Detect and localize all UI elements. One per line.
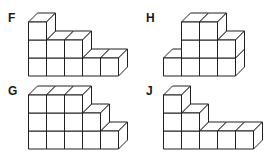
figure-f-top-face-col2: [65, 31, 92, 40]
figure-g-side-face-c3-l1: [101, 104, 110, 131]
figure-g-front-face-c2-l1: [65, 113, 83, 131]
figure-g-top-face-col2: [65, 86, 92, 95]
figure-g-front-face-c3-l1: [83, 113, 101, 131]
figure-g-front-face-c1-l0: [47, 131, 65, 149]
figure-h-front-face-c2-l1: [200, 40, 218, 58]
figure-f-front-face-c0-l1: [29, 40, 47, 58]
figure-g: G: [0, 0, 268, 157]
figure-g-front-face-c2-l2: [65, 95, 83, 113]
figure-f-top-face-col0: [29, 13, 56, 22]
figure-j-top-face-col4: [236, 122, 263, 131]
figure-g-top-face-col1: [47, 86, 74, 95]
figure-h-side-face-c3-l1: [236, 31, 245, 58]
figure-f-front-face-c0-l2: [29, 22, 47, 40]
figure-f-side-face-c4-l0: [119, 49, 128, 76]
figure-h: H: [0, 0, 268, 157]
figure-f-front-face-c2-l0: [65, 58, 83, 76]
figure-f-front-face-c1-l0: [47, 58, 65, 76]
figure-j-side-face-c0-l2: [182, 86, 191, 113]
figure-g-side-face-c2-l2: [83, 86, 92, 113]
figure-j-label: J: [146, 85, 153, 97]
figure-f-drawing: [28, 12, 129, 77]
figure-h-top-face-col2: [200, 13, 227, 22]
figure-h-front-face-c2-l2: [200, 22, 218, 40]
figure-h-front-face-c1-l2: [182, 22, 200, 40]
figure-j-front-face-c0-l1: [164, 113, 182, 131]
figure-f-top-face-col4: [101, 49, 128, 58]
figure-g-label: G: [8, 85, 17, 97]
figure-j-front-face-c0-l2: [164, 95, 182, 113]
figure-g-front-face-c0-l1: [29, 113, 47, 131]
figure-j-side-face-c4-l0: [254, 122, 263, 149]
figure-j: J: [0, 0, 268, 157]
figure-h-front-face-c1-l1: [182, 40, 200, 58]
figure-h-side-face-c2-l2: [218, 13, 227, 40]
figure-f-top-face-col3: [83, 49, 110, 58]
figure-f-front-face-c3-l0: [83, 58, 101, 76]
figure-j-front-face-c1-l1: [182, 113, 200, 131]
figure-j-drawing: [163, 85, 264, 150]
figure-f-front-face-c0-l0: [29, 58, 47, 76]
figure-h-label: H: [146, 12, 155, 24]
cube-figures-panel: FHGJ: [0, 0, 268, 157]
figure-j-top-face-col3: [218, 122, 245, 131]
figure-g-front-face-c2-l0: [65, 131, 83, 149]
figure-j-front-face-c1-l0: [182, 131, 200, 149]
figure-g-front-face-c1-l1: [47, 113, 65, 131]
figure-h-drawing: [163, 12, 246, 77]
figure-f: F: [0, 0, 268, 157]
figure-h-front-face-c1-l0: [182, 58, 200, 76]
figure-j-front-face-c2-l0: [200, 131, 218, 149]
figure-g-front-face-c4-l0: [101, 131, 119, 149]
figure-f-front-face-c2-l1: [65, 40, 83, 58]
figure-j-front-face-c4-l0: [236, 131, 254, 149]
figure-f-front-face-c1-l1: [47, 40, 65, 58]
figure-h-front-face-c2-l0: [200, 58, 218, 76]
figure-g-front-face-c0-l2: [29, 95, 47, 113]
figure-j-top-face-col1: [182, 104, 209, 113]
figure-h-front-face-c0-l0: [164, 58, 182, 76]
figure-j-side-face-c1-l1: [200, 104, 209, 131]
figure-f-side-face-c2-l1: [83, 31, 92, 58]
figure-j-front-face-c0-l0: [164, 131, 182, 149]
figure-j-top-face-col2: [200, 122, 227, 131]
figure-g-drawing: [28, 85, 129, 150]
figure-h-top-face-col3: [218, 31, 245, 40]
figure-h-top-face-col0: [164, 49, 191, 58]
figure-j-top-face-col0: [164, 86, 191, 95]
figure-j-front-face-c3-l0: [218, 131, 236, 149]
figure-h-front-face-c3-l1: [218, 40, 236, 58]
figure-g-top-face-col3: [83, 104, 110, 113]
figure-h-side-face-c3-l0: [236, 49, 245, 76]
figure-f-front-face-c4-l0: [101, 58, 119, 76]
figure-g-top-face-col0: [29, 86, 56, 95]
figure-h-front-face-c3-l0: [218, 58, 236, 76]
figure-f-top-face-col1: [47, 31, 74, 40]
figure-g-front-face-c0-l0: [29, 131, 47, 149]
figure-g-front-face-c3-l0: [83, 131, 101, 149]
figure-g-top-face-col4: [101, 122, 128, 131]
figure-f-side-face-c0-l2: [47, 13, 56, 40]
figure-h-top-face-col1: [182, 13, 209, 22]
figure-f-label: F: [8, 12, 15, 24]
figure-g-front-face-c1-l2: [47, 95, 65, 113]
figure-g-side-face-c4-l0: [119, 122, 128, 149]
